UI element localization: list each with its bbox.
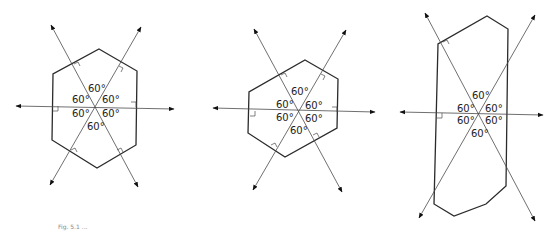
angle-label: 60° <box>290 125 308 136</box>
angle-label: 60° <box>305 113 323 124</box>
horizontal-symmetry-axis <box>213 108 375 112</box>
angle-label: 60° <box>88 83 106 94</box>
angle-label: 60° <box>102 108 120 119</box>
right-angle-markers <box>437 40 449 118</box>
angle-label: 60° <box>291 86 309 97</box>
angle-label: 60° <box>87 121 105 132</box>
figure-rotated-hexagon: 60° 60° 60° 60° 60° 60° <box>213 29 375 192</box>
angle-label: 60° <box>457 103 475 114</box>
diagonal-symmetry-axis-1 <box>51 25 138 187</box>
angle-label: 60° <box>102 94 120 105</box>
angle-label: 60° <box>485 115 503 126</box>
angle-label: 60° <box>472 90 490 101</box>
diagonal-symmetry-axis-2 <box>253 30 346 190</box>
angle-label: 60° <box>471 128 489 139</box>
angle-label: 60° <box>305 100 323 111</box>
angle-label: 60° <box>485 103 503 114</box>
figure-elongated-hexagon: 60° 60° 60° 60° 60° 60° <box>400 13 543 221</box>
angle-label: 60° <box>72 108 90 119</box>
figure-caption: Fig. 5.1 ... <box>58 223 88 231</box>
angle-label: 60° <box>72 94 90 105</box>
diagram-canvas: 60° 60° 60° 60° 60° 60° 60° 60° 60° 60° … <box>0 0 559 232</box>
angle-label: 60° <box>276 99 294 110</box>
angle-label: 60° <box>457 115 475 126</box>
angle-label: 60° <box>276 112 294 123</box>
figure-regular-hexagon: 60° 60° 60° 60° 60° 60° <box>16 25 174 187</box>
